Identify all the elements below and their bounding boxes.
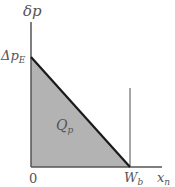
origin-label: 0 xyxy=(29,172,37,185)
x-axis-label: xn xyxy=(157,171,170,187)
y-axis-label: δp xyxy=(23,4,42,19)
y-intercept-label: ΔpE xyxy=(1,49,25,65)
diagram-canvas xyxy=(0,0,175,187)
area-label: Qp xyxy=(56,118,73,135)
x-intercept-label: Wb xyxy=(124,171,143,187)
